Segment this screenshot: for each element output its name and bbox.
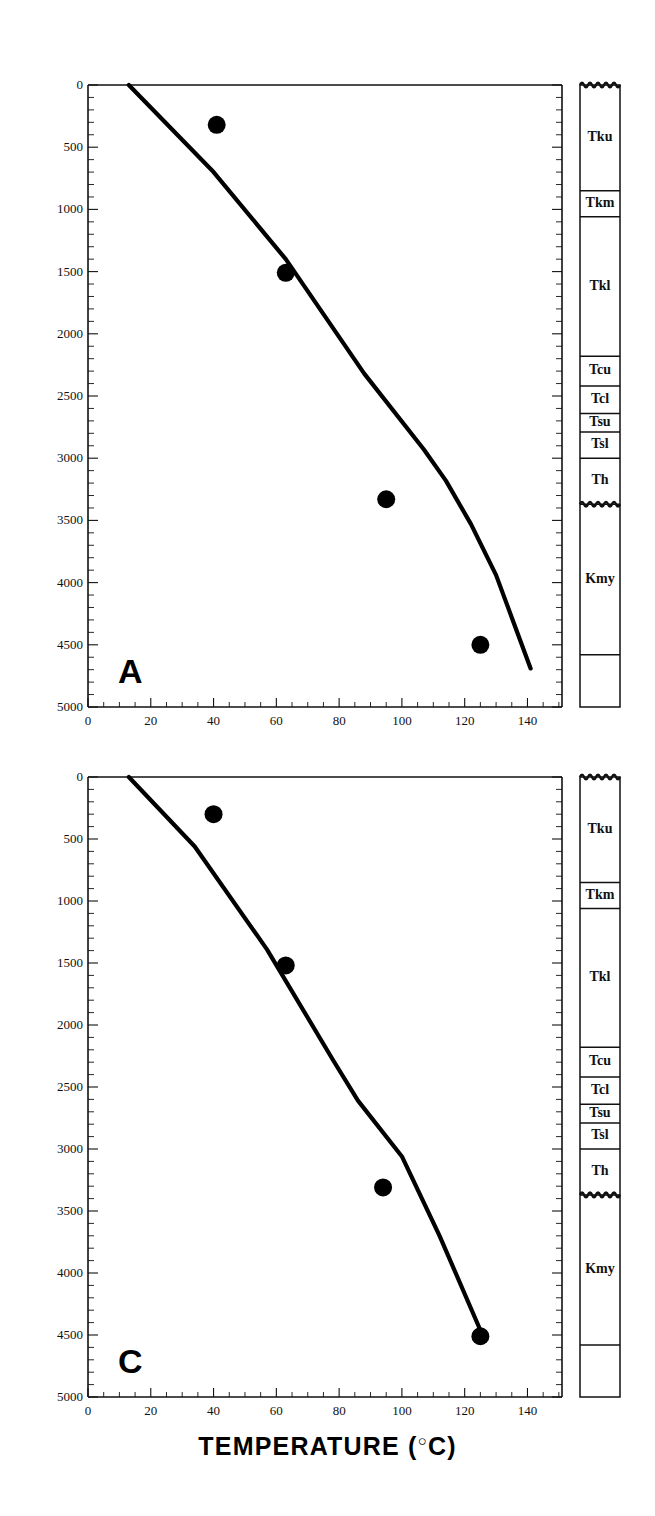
x-tick-label: 120 (455, 1403, 475, 1418)
panel-letter: A (118, 652, 143, 690)
y-tick-label: 3000 (57, 450, 83, 465)
data-point (377, 490, 395, 508)
y-tick-label: 0 (77, 77, 84, 92)
panel-c-plot: 0500100015002000250030003500400045005000… (0, 732, 655, 1412)
strat-unit-label: Tsu (589, 1105, 611, 1120)
x-tick-label: 140 (518, 1403, 538, 1418)
data-point (471, 636, 489, 654)
x-tick-label: 80 (333, 1403, 346, 1418)
geotherm-curve (129, 777, 484, 1337)
x-axis-title-main: TEMPERATURE ( (198, 1432, 417, 1460)
x-tick-label: 20 (144, 1403, 157, 1418)
y-tick-label: 3500 (57, 512, 83, 527)
y-tick-label: 4000 (57, 575, 83, 590)
y-tick-label: 2000 (57, 1017, 83, 1032)
y-tick-label: 5000 (57, 1389, 83, 1404)
strat-unit-label: Tsl (591, 1127, 609, 1142)
x-tick-label: 40 (207, 713, 220, 728)
strat-unit-label: Tkm (586, 887, 615, 902)
x-axis-title: TEMPERATURE (○C) (0, 1432, 655, 1461)
y-tick-label: 1500 (57, 264, 83, 279)
strat-unit-label: Kmy (585, 571, 615, 586)
y-tick-label: 0 (77, 769, 84, 784)
x-tick-label: 80 (333, 713, 346, 728)
data-point (277, 956, 295, 974)
strat-unit-label: Tcl (591, 1082, 609, 1097)
y-tick-label: 5000 (57, 699, 83, 714)
x-tick-label: 60 (270, 1403, 283, 1418)
strat-unit-label: Tku (588, 129, 613, 144)
data-point (205, 805, 223, 823)
panel-a: 0500100015002000250030003500400045005000… (0, 0, 655, 760)
y-tick-label: 2000 (57, 326, 83, 341)
strat-unit-label: Tcl (591, 391, 609, 406)
y-tick-label: 500 (64, 139, 84, 154)
y-tick-label: 4000 (57, 1265, 83, 1280)
strat-unit-label: Tkm (586, 195, 615, 210)
x-tick-label: 140 (518, 713, 538, 728)
panel-a-svg: 0500100015002000250030003500400045005000… (0, 0, 655, 760)
strat-unit-label: Tkl (589, 969, 610, 984)
y-tick-label: 4500 (57, 1327, 83, 1342)
x-tick-label: 120 (455, 713, 475, 728)
y-tick-label: 1000 (57, 201, 83, 216)
x-tick-label: 20 (144, 713, 157, 728)
geotherm-curve (129, 85, 531, 668)
data-point (374, 1178, 392, 1196)
y-tick-label: 1500 (57, 955, 83, 970)
data-point (471, 1327, 489, 1345)
strat-unit-label: Tcu (589, 1053, 611, 1068)
x-tick-label: 0 (85, 1403, 92, 1418)
strat-unit-label: Th (591, 472, 608, 487)
strat-unit-label: Th (591, 1163, 608, 1178)
strat-unit-label: Kmy (585, 1261, 615, 1276)
y-tick-label: 1000 (57, 893, 83, 908)
y-tick-label: 2500 (57, 388, 83, 403)
strat-unit-label: Tsl (591, 436, 609, 451)
panel-a-plot: 0500100015002000250030003500400045005000… (0, 0, 655, 760)
panel-c: 0500100015002000250030003500400045005000… (0, 732, 655, 1412)
figure-page: 0500100015002000250030003500400045005000… (0, 0, 655, 1516)
strat-unit-label: Tkl (589, 278, 610, 293)
x-tick-label: 40 (207, 1403, 220, 1418)
x-tick-label: 100 (392, 713, 412, 728)
data-point (277, 264, 295, 282)
degree-icon: ○ (418, 1432, 428, 1449)
x-tick-label: 100 (392, 1403, 412, 1418)
x-tick-label: 0 (85, 713, 92, 728)
y-tick-label: 3500 (57, 1203, 83, 1218)
y-tick-label: 3000 (57, 1141, 83, 1156)
strat-unit-label: Tsu (589, 414, 611, 429)
data-point (208, 116, 226, 134)
panel-c-svg: 0500100015002000250030003500400045005000… (0, 732, 655, 1412)
strat-unit-label: Tcu (589, 362, 611, 377)
x-tick-label: 60 (270, 713, 283, 728)
panel-letter: C (118, 1342, 143, 1380)
strat-unit-label: Tku (588, 821, 613, 836)
y-tick-label: 4500 (57, 637, 83, 652)
y-tick-label: 500 (64, 831, 84, 846)
y-tick-label: 2500 (57, 1079, 83, 1094)
x-axis-title-unit: C) (428, 1432, 457, 1460)
